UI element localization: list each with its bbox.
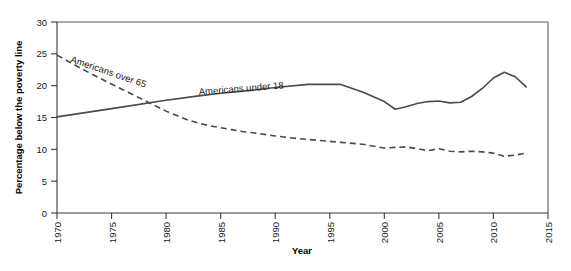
series-annotation-over-65: Americans over 65 [69, 53, 147, 89]
x-tick-label: 1985 [216, 222, 227, 243]
y-tick-label: 25 [36, 48, 47, 59]
y-tick-label: 20 [36, 80, 47, 91]
y-tick-label: 5 [42, 176, 47, 187]
y-tick-label: 10 [36, 144, 47, 155]
x-tick-label: 2015 [543, 222, 554, 243]
x-tick-label: 1970 [52, 222, 63, 243]
x-tick-label: 1990 [270, 222, 281, 243]
x-axis-tick-labels: 1970 1975 1980 1985 1990 1995 2000 2005 … [52, 222, 554, 243]
x-axis-ticks [57, 213, 548, 219]
chart-canvas: 30 25 20 15 10 5 0 1970 1975 1980 1985 [0, 0, 571, 271]
x-tick-label: 2010 [488, 222, 499, 243]
plot-frame [57, 22, 548, 213]
y-tick-label: 0 [42, 208, 47, 219]
y-tick-label: 30 [36, 17, 47, 28]
y-tick-label: 15 [36, 112, 47, 123]
y-axis-title: Percentage below the poverty line [13, 41, 24, 195]
x-tick-label: 1995 [325, 222, 336, 243]
series-annotation-under-18: Americans under 18 [198, 79, 284, 97]
x-tick-label: 2000 [379, 222, 390, 243]
x-tick-label: 1975 [107, 222, 118, 243]
x-tick-label: 2005 [434, 222, 445, 243]
y-axis-tick-labels: 30 25 20 15 10 5 0 [36, 17, 47, 219]
y-axis-ticks [51, 22, 57, 213]
x-tick-label: 1980 [161, 222, 172, 243]
poverty-line-chart: 30 25 20 15 10 5 0 1970 1975 1980 1985 [0, 0, 571, 271]
x-axis-title: Year [292, 245, 312, 256]
